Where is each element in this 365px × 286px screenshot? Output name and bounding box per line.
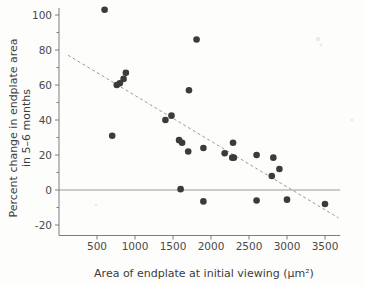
axes-group — [55, 8, 340, 240]
y-tick-label: 60 — [39, 79, 52, 91]
scan-speck — [316, 37, 320, 41]
data-point — [231, 154, 238, 161]
data-point — [230, 139, 237, 146]
data-point — [109, 132, 116, 139]
y-tick-label: 20 — [39, 149, 52, 161]
data-point — [168, 112, 175, 119]
regression-fit-line — [68, 55, 339, 218]
y-tick-label: -20 — [35, 219, 52, 231]
data-point — [270, 154, 277, 161]
tick-labels-group: -200204060801005001000150020002500300035… — [32, 9, 338, 252]
data-point — [177, 186, 184, 193]
data-point — [179, 139, 186, 146]
data-point — [284, 196, 291, 203]
scan-speck — [350, 118, 353, 121]
scan-artifacts — [95, 37, 354, 251]
data-point — [253, 197, 260, 204]
data-point — [101, 6, 108, 13]
x-tick-label: 3000 — [274, 240, 301, 252]
data-point — [162, 117, 169, 124]
y-tick-label: 40 — [39, 114, 52, 126]
y-tick-label: 0 — [45, 184, 52, 196]
chart-figure: -200204060801005001000150020002500300035… — [0, 0, 365, 286]
data-point — [193, 36, 200, 43]
data-point — [322, 201, 329, 208]
scan-speck — [320, 44, 323, 47]
y-tick-label: 80 — [39, 44, 52, 56]
data-point — [253, 152, 260, 159]
scan-speck — [95, 204, 97, 206]
y-axis-title-line2: in 5–6 months — [20, 89, 33, 167]
data-point — [221, 150, 228, 157]
x-tick-label: 2000 — [198, 240, 225, 252]
x-axis-title: Area of endplate at initial viewing (µm²… — [94, 267, 314, 280]
data-point — [186, 87, 193, 94]
axis-spine — [59, 8, 340, 236]
x-tick-label: 2500 — [236, 240, 263, 252]
x-tick-label: 1000 — [122, 240, 149, 252]
data-point — [200, 198, 207, 205]
data-point — [120, 76, 127, 83]
x-tick-label: 3500 — [312, 240, 339, 252]
x-tick-label: 1500 — [160, 240, 187, 252]
reference-lines-group — [59, 55, 340, 218]
y-tick-label: 100 — [32, 9, 52, 21]
data-point — [200, 145, 207, 152]
y-axis-title-line1: Percent change in endplate area — [7, 39, 20, 218]
data-points-group — [101, 6, 328, 207]
scatter-chart-canvas: -200204060801005001000150020002500300035… — [0, 0, 365, 286]
data-point — [185, 148, 192, 155]
data-point — [123, 69, 130, 76]
data-point — [276, 166, 283, 173]
x-tick-label: 500 — [87, 240, 107, 252]
data-point — [269, 173, 276, 180]
